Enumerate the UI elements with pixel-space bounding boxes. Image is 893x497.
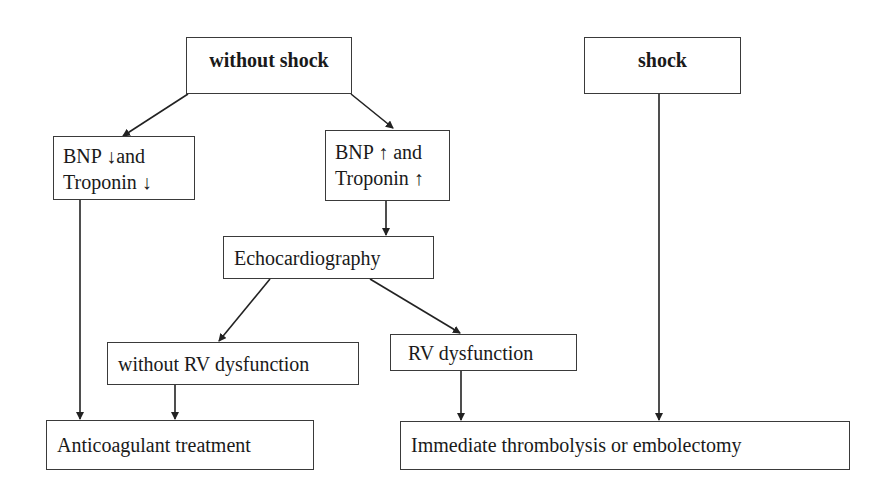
node-label-line2: Troponin ↓ xyxy=(63,169,194,195)
node-label-line1: BNP ↑ and xyxy=(335,139,449,165)
node-rv-dysfunction: RV dysfunction xyxy=(390,334,577,371)
node-anticoagulant-treatment: Anticoagulant treatment xyxy=(46,420,314,470)
node-label: Immediate thrombolysis or embolectomy xyxy=(411,434,742,456)
node-label-line1: BNP ↓and xyxy=(63,143,194,169)
node-label: RV dysfunction xyxy=(408,342,533,364)
node-bnp-troponin-low: BNP ↓and Troponin ↓ xyxy=(53,136,195,200)
node-label: without shock xyxy=(209,49,328,71)
node-label: Echocardiography xyxy=(234,247,381,269)
node-label: Anticoagulant treatment xyxy=(57,434,251,456)
node-shock: shock xyxy=(584,37,741,94)
node-label: without RV dysfunction xyxy=(118,353,309,375)
node-without-shock: without shock xyxy=(186,37,352,94)
node-immediate-thrombolysis: Immediate thrombolysis or embolectomy xyxy=(400,421,850,470)
node-echocardiography: Echocardiography xyxy=(223,236,434,279)
node-label: shock xyxy=(638,49,687,71)
node-label-line2: Troponin ↑ xyxy=(335,165,449,191)
node-without-rv-dysfunction: without RV dysfunction xyxy=(107,342,359,385)
node-bnp-troponin-high: BNP ↑ and Troponin ↑ xyxy=(325,130,450,201)
